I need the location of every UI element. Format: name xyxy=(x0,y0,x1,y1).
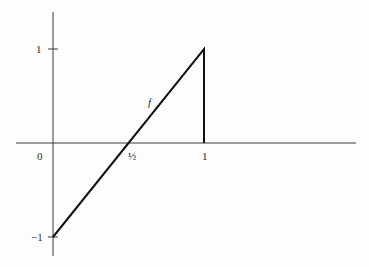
origin-label: 0 xyxy=(37,151,43,162)
x-tick-label-1: 1 xyxy=(202,151,208,162)
function-f-label: f xyxy=(148,97,151,108)
chart: 0 ½ 1 1 −1 f xyxy=(0,0,369,267)
x-tick-label-half: ½ xyxy=(128,151,136,162)
y-tick-label-minus-1: −1 xyxy=(31,232,43,243)
y-tick-label-1: 1 xyxy=(36,44,42,55)
plot-area xyxy=(0,0,369,267)
